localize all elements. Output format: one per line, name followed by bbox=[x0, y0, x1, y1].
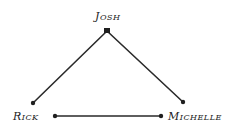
node-label-rick: Rick bbox=[13, 111, 39, 122]
node-rick-upper bbox=[31, 101, 35, 105]
node-michelle-upper bbox=[181, 100, 185, 104]
relationship-diagram: Josh Rick Michelle bbox=[0, 0, 247, 132]
node-michelle-lower bbox=[159, 114, 163, 118]
edge-josh-michelle bbox=[107, 31, 183, 102]
edge-josh-rick bbox=[33, 31, 107, 103]
node-rick-lower bbox=[53, 114, 57, 118]
node-label-michelle: Michelle bbox=[168, 111, 222, 122]
node-josh bbox=[104, 28, 110, 33]
node-label-josh: Josh bbox=[95, 11, 120, 22]
